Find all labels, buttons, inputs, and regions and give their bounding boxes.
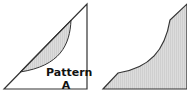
right-shape (103, 4, 187, 89)
shaded-area (103, 4, 187, 89)
diagram-canvas (0, 0, 187, 99)
pattern-label: Pattern A (46, 66, 86, 92)
pattern-label-line2: A (46, 79, 86, 92)
pattern-label-line1: Pattern (46, 66, 86, 79)
